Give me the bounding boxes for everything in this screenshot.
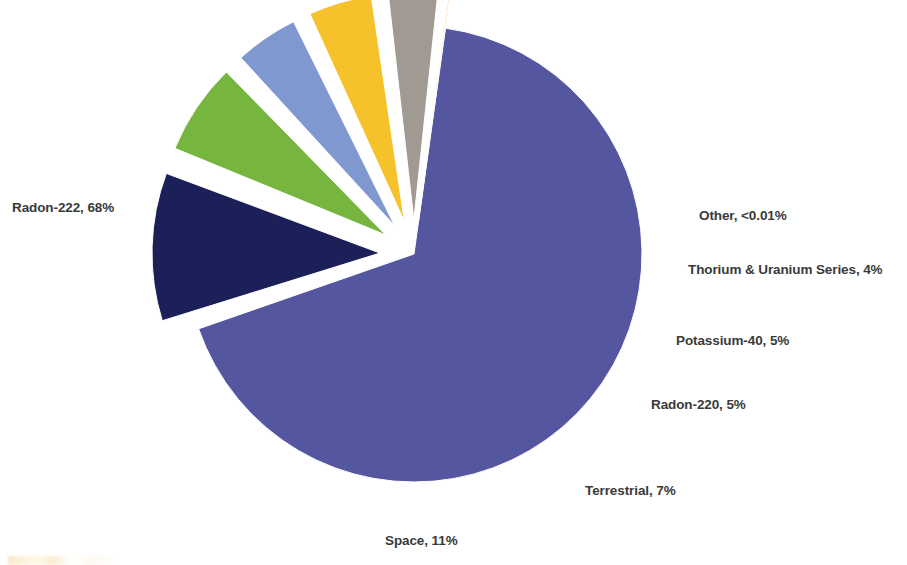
- slice-label-potassium-40: Potassium-40, 5%: [676, 334, 789, 349]
- cropped-caption-artifact: [8, 556, 116, 565]
- slice-label-radon-222: Radon-222, 68%: [12, 201, 114, 216]
- slice-label-terrestrial: Terrestrial, 7%: [585, 484, 676, 499]
- slice-label-radon-220: Radon-220, 5%: [651, 398, 746, 413]
- slice-label-other: Other, <0.01%: [699, 209, 787, 224]
- pie-slices-group: [152, 0, 642, 482]
- pie-chart-canvas: [0, 0, 907, 565]
- slice-label-thorium-uranium-series: Thorium & Uranium Series, 4%: [688, 263, 883, 278]
- pie-chart-figure: Radon-222, 68% Other, <0.01% Thorium & U…: [0, 0, 907, 565]
- slice-label-space: Space, 11%: [385, 534, 458, 549]
